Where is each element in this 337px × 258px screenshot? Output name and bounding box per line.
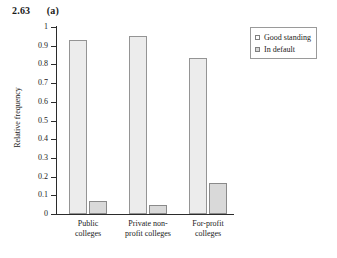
bar	[189, 58, 207, 214]
legend-item: Good standing	[255, 33, 311, 42]
legend-swatch-icon	[255, 47, 260, 52]
y-tick-label: 0.1	[38, 191, 48, 199]
x-axis-category-label: For-profitcolleges	[168, 219, 248, 239]
x-axis-category-label-line: colleges	[168, 229, 248, 239]
bar	[149, 205, 167, 214]
y-tick-mark	[51, 214, 56, 215]
y-tick-mark	[51, 158, 56, 159]
y-axis-title: Relative frequency	[13, 58, 22, 178]
y-tick-mark	[51, 102, 56, 103]
y-axis-line	[56, 26, 57, 215]
y-tick-label: 0.4	[38, 135, 48, 143]
bar	[89, 201, 107, 214]
bar	[209, 183, 227, 214]
x-axis-category-label-line: For-profit	[168, 219, 248, 229]
y-tick-label: 0	[44, 210, 48, 218]
y-tick-mark	[51, 121, 56, 122]
y-tick-label: 0.2	[38, 173, 48, 181]
y-tick-label: 0.9	[38, 42, 48, 50]
bar-chart: 10.90.80.70.60.50.40.30.20.10 Relative f…	[0, 0, 337, 258]
y-tick-label: 0.7	[38, 79, 48, 87]
y-tick-label: 0.3	[38, 154, 48, 162]
legend-swatch-icon	[255, 35, 260, 40]
chart-legend: Good standingIn default	[250, 27, 317, 59]
y-tick-mark	[51, 46, 56, 47]
y-tick-mark	[51, 177, 56, 178]
legend-item: In default	[255, 45, 311, 54]
y-tick-label: 1	[44, 23, 48, 31]
y-tick-mark	[51, 27, 56, 28]
y-tick-mark	[51, 83, 56, 84]
y-tick-mark	[51, 139, 56, 140]
y-tick-label: 0.8	[38, 60, 48, 68]
legend-label: Good standing	[264, 33, 311, 42]
bar	[69, 40, 87, 214]
bar	[129, 36, 147, 214]
legend-label: In default	[264, 45, 295, 54]
y-tick-mark	[51, 195, 56, 196]
y-tick-mark	[51, 64, 56, 65]
x-axis-line	[56, 214, 234, 215]
y-tick-label: 0.6	[38, 98, 48, 106]
y-tick-label: 0.5	[38, 117, 48, 125]
